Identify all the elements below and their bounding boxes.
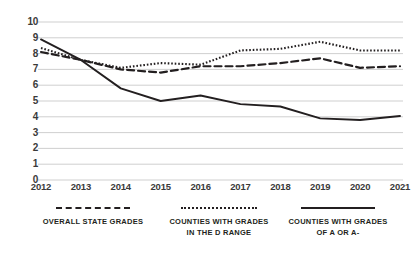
x-tick-label-2012: 2012 bbox=[31, 182, 51, 192]
x-tick-label-2015: 2015 bbox=[150, 182, 170, 192]
y-tick-label-1: 1 bbox=[33, 159, 38, 169]
legend-item-dotted[interactable]: Counties with grades in the D range bbox=[150, 205, 288, 239]
plot-area bbox=[0, 0, 414, 200]
y-tick-label-10: 10 bbox=[27, 17, 38, 27]
legend-item-dashed[interactable]: Overall state grades bbox=[18, 205, 168, 227]
y-tick-label-8: 8 bbox=[33, 49, 38, 59]
x-tick-label-2020: 2020 bbox=[350, 182, 370, 192]
legend-item-solid[interactable]: Counties with grades of A or A- bbox=[272, 205, 404, 239]
y-tick-label-6: 6 bbox=[33, 80, 38, 90]
x-axis-ticks: 2012201320142015201620172018201920202021 bbox=[0, 182, 414, 200]
x-tick-label-2013: 2013 bbox=[71, 182, 91, 192]
plot-svg bbox=[0, 0, 414, 200]
x-tick-label-2016: 2016 bbox=[190, 182, 210, 192]
legend-swatch-dotted-icon bbox=[181, 205, 257, 211]
y-tick-label-7: 7 bbox=[33, 64, 38, 74]
x-tick-label-2018: 2018 bbox=[270, 182, 290, 192]
legend-label-solid: Counties with grades of A or A- bbox=[272, 216, 404, 239]
legend-label-dashed: Overall state grades bbox=[18, 216, 168, 227]
y-tick-label-4: 4 bbox=[33, 112, 38, 122]
y-tick-label-3: 3 bbox=[33, 128, 38, 138]
x-tick-label-2019: 2019 bbox=[310, 182, 330, 192]
x-tick-label-2014: 2014 bbox=[111, 182, 131, 192]
y-tick-label-5: 5 bbox=[33, 96, 38, 106]
y-tick-label-9: 9 bbox=[33, 33, 38, 43]
line-chart: 109876543210 201220132014201520162017201… bbox=[0, 0, 414, 260]
legend-label-dotted: Counties with grades in the D range bbox=[150, 216, 288, 239]
legend-swatch-dashed-icon bbox=[56, 205, 130, 211]
x-tick-label-2017: 2017 bbox=[230, 182, 250, 192]
chart-legend: Overall state gradesCounties with grades… bbox=[0, 205, 414, 260]
legend-swatch-solid-icon bbox=[301, 205, 375, 211]
y-tick-label-2: 2 bbox=[33, 143, 38, 153]
x-tick-label-2021: 2021 bbox=[390, 182, 410, 192]
series-line-2 bbox=[41, 39, 400, 120]
y-axis-ticks: 109876543210 bbox=[20, 0, 38, 200]
